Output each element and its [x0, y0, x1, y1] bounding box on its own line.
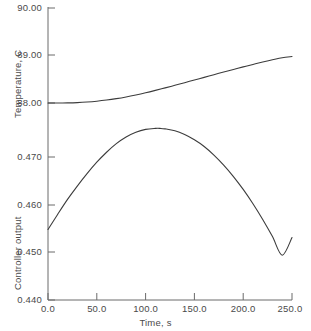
chart-figure: 90.00 89.00 88.00 0.470 0.460 0.450 0.44… [0, 0, 311, 331]
temperature-line [48, 57, 292, 103]
x-ticks [48, 293, 292, 300]
ytick-label-controller-0460: 0.460 [0, 199, 42, 210]
x-axis-title: Time, s [0, 317, 311, 328]
ytick-label-temperature-90: 90.00 [0, 2, 42, 13]
xtick-label-100: 100.0 [126, 303, 166, 314]
controller-output-line [48, 128, 292, 255]
xtick-label-50: 50.0 [77, 303, 117, 314]
ytick-label-controller-0470: 0.470 [0, 151, 42, 162]
temperature-y-ticks [48, 8, 55, 103]
xtick-label-0: 0.0 [28, 303, 68, 314]
y-axis-title-controller-output: Controller output [12, 216, 23, 290]
y-axis-title-temperature: Temperature, C [12, 50, 23, 118]
xtick-label-250: 250.0 [270, 303, 310, 314]
plot-canvas [0, 0, 311, 331]
xtick-label-150: 150.0 [174, 303, 214, 314]
xtick-label-200: 200.0 [223, 303, 263, 314]
